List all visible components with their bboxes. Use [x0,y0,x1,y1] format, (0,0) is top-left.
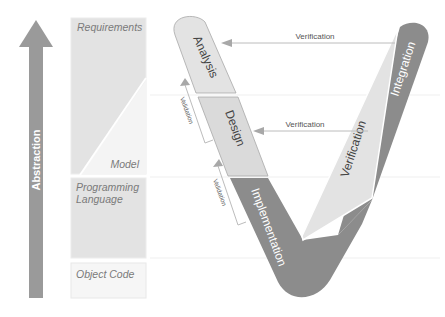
level-column: Requirements Model Programming Language … [71,18,146,298]
requirements-label: Requirements [77,21,143,33]
validation-label-2: Validation [212,178,228,207]
abstraction-arrow: Abstraction [19,20,53,298]
model-label: Model [110,158,139,170]
validation-label-1: Validation [179,96,195,125]
verification-arrow-analysis: Verification [221,32,395,47]
programming-language-label-1: Programming [76,181,139,193]
abstraction-label: Abstraction [30,129,42,190]
verification-arrow-label-2: Verification [285,120,324,129]
verification-arrow-label-1: Verification [295,32,334,41]
programming-language-label-2: Language [76,193,123,205]
object-code-label: Object Code [76,268,135,280]
